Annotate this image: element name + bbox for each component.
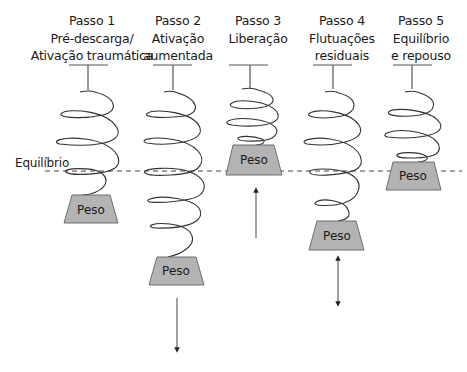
weight-label: Peso: [240, 153, 268, 167]
weight-label: Peso: [323, 229, 351, 243]
spring-assembly-step-2: Peso: [144, 65, 204, 350]
spring-assembly-step-1: Peso: [56, 65, 118, 223]
spring-assembly-step-3: Peso: [226, 65, 282, 238]
spring-coil: [144, 91, 204, 257]
spring-coil: [56, 91, 118, 195]
spring-assembly-step-5: Peso: [385, 65, 441, 190]
spring-assembly-step-4: Peso: [304, 65, 364, 304]
weight-label: Peso: [162, 264, 190, 278]
spring-coil: [385, 91, 441, 162]
spring-diagram: Peso Peso Peso Peso Peso: [0, 0, 467, 372]
spring-coil: [227, 88, 278, 145]
weight-label: Peso: [399, 169, 427, 183]
weight-label: Peso: [77, 203, 105, 217]
spring-coil: [304, 91, 361, 221]
